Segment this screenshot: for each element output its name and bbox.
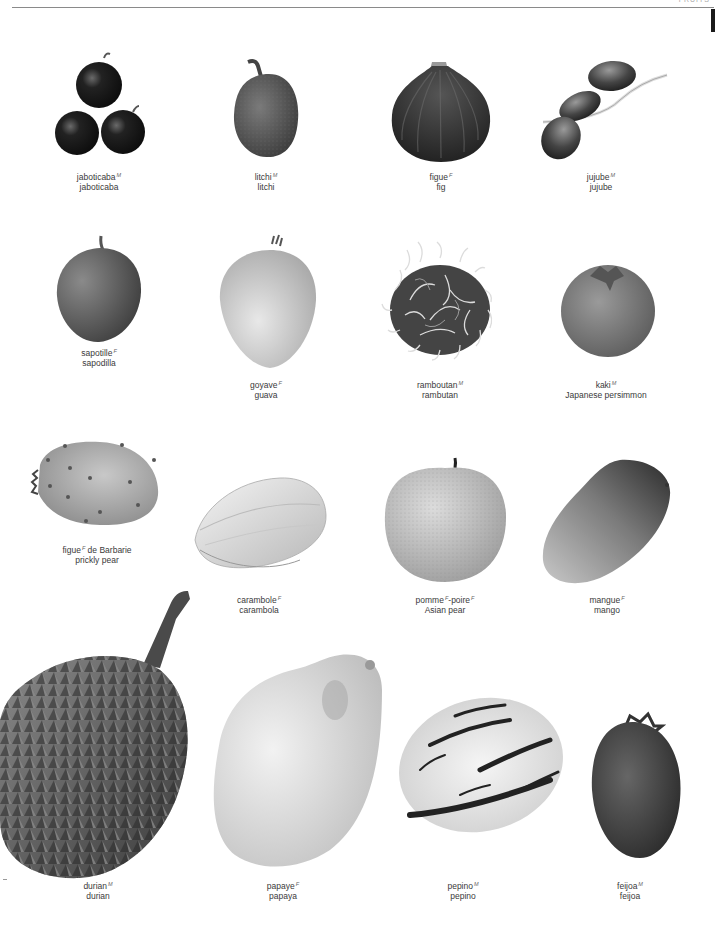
fruit-caption-prickly-pear: figueF de Barbarie prickly pear bbox=[62, 545, 131, 565]
english-name: feijoa bbox=[617, 891, 643, 901]
french-name: goyave bbox=[250, 380, 277, 390]
english-name: carambola bbox=[237, 605, 281, 615]
fruit-caption-guava: goyaveF guava bbox=[250, 380, 282, 400]
pepino-illustration bbox=[384, 680, 579, 850]
guava-illustration bbox=[220, 235, 316, 368]
english-name: prickly pear bbox=[62, 555, 131, 565]
gender-marker: F bbox=[113, 348, 116, 354]
fruit-caption-pepino: pepinoM pepino bbox=[447, 881, 478, 901]
fruit-caption-fig: figueF fig bbox=[430, 172, 453, 192]
gender-marker: M bbox=[117, 172, 122, 178]
french-name: pomme bbox=[416, 595, 444, 605]
carambola-illustration bbox=[195, 478, 326, 568]
fruit-caption-asian-pear: pommeF-poireF Asian pear bbox=[416, 595, 475, 615]
asian-pear-illustration bbox=[385, 458, 506, 582]
english-name: litchi bbox=[255, 182, 278, 192]
french-name: figue bbox=[62, 545, 80, 555]
english-name: pepino bbox=[447, 891, 478, 901]
fruit-caption-rambutan: ramboutanM rambutan bbox=[417, 380, 463, 400]
english-name: fig bbox=[430, 182, 453, 192]
jujube-illustration bbox=[534, 59, 667, 167]
durian-illustration bbox=[0, 591, 190, 878]
gender-marker: M bbox=[108, 881, 113, 887]
french-name-suffix: -poire bbox=[448, 595, 470, 605]
gender-marker: F bbox=[278, 595, 281, 601]
rambutan-illustration bbox=[382, 242, 492, 360]
gender-marker: M bbox=[612, 380, 617, 386]
gender-marker: M bbox=[638, 881, 643, 887]
fruit-caption-litchi: litchiM litchi bbox=[255, 172, 278, 192]
fruit-caption-jaboticaba: jaboticabaM jaboticaba bbox=[77, 172, 121, 192]
fruit-caption-feijoa: feijoaM feijoa bbox=[617, 881, 643, 901]
fruit-caption-mango: mangueF mango bbox=[589, 595, 624, 615]
fruit-caption-papaya: papayeF papaya bbox=[267, 881, 299, 901]
fig-illustration bbox=[392, 62, 490, 162]
english-name: jaboticaba bbox=[77, 182, 121, 192]
french-name: kaki bbox=[596, 380, 611, 390]
fruit-caption-sapodilla: sapotilleF sapodilla bbox=[81, 348, 117, 368]
gender-marker: M bbox=[611, 172, 616, 178]
gender-marker: M bbox=[474, 881, 479, 887]
french-name: papaye bbox=[267, 881, 295, 891]
japanese-persimmon-illustration bbox=[561, 265, 655, 357]
fruit-caption-durian: durianM durian bbox=[83, 881, 112, 901]
french-name: jaboticaba bbox=[77, 172, 116, 182]
english-name: jujube bbox=[587, 182, 615, 192]
gender-marker: F bbox=[471, 595, 474, 601]
gender-marker: F bbox=[621, 595, 624, 601]
english-name: sapodilla bbox=[81, 358, 117, 368]
gender-marker: F bbox=[279, 380, 282, 386]
english-name: rambutan bbox=[417, 390, 463, 400]
gender-marker: F bbox=[296, 881, 299, 887]
english-name: mango bbox=[589, 605, 624, 615]
english-name: Japanese persimmon bbox=[565, 390, 646, 400]
fruit-illustrations bbox=[0, 0, 718, 932]
feijoa-illustration bbox=[592, 714, 681, 858]
french-name: figue bbox=[430, 172, 448, 182]
english-name: guava bbox=[250, 390, 282, 400]
french-name-suffix: de Barbarie bbox=[85, 545, 131, 555]
french-name: carambole bbox=[237, 595, 277, 605]
french-name: jujube bbox=[587, 172, 610, 182]
french-name: ramboutan bbox=[417, 380, 458, 390]
fruit-caption-jujube: jujubeM jujube bbox=[587, 172, 615, 192]
fruit-caption-carambola: caramboleF carambola bbox=[237, 595, 281, 615]
gender-marker: F bbox=[449, 172, 452, 178]
french-name: litchi bbox=[255, 172, 272, 182]
sapodilla-illustration bbox=[57, 236, 141, 342]
gender-marker: M bbox=[459, 380, 464, 386]
french-name: feijoa bbox=[617, 881, 637, 891]
jaboticaba-illustration bbox=[55, 54, 145, 156]
papaya-illustration bbox=[214, 655, 382, 867]
french-name: sapotille bbox=[81, 348, 112, 358]
french-name: pepino bbox=[447, 881, 473, 891]
litchi-illustration bbox=[234, 61, 298, 157]
mango-illustration bbox=[543, 460, 670, 583]
english-name: Asian pear bbox=[416, 605, 475, 615]
french-name: durian bbox=[83, 881, 107, 891]
fruit-caption-japanese-persimmon: kakiM Japanese persimmon bbox=[565, 380, 646, 400]
gender-marker: M bbox=[273, 172, 278, 178]
english-name: durian bbox=[83, 891, 112, 901]
english-name: papaya bbox=[267, 891, 299, 901]
french-name: mangue bbox=[589, 595, 620, 605]
prickly-pear-illustration bbox=[32, 442, 158, 525]
